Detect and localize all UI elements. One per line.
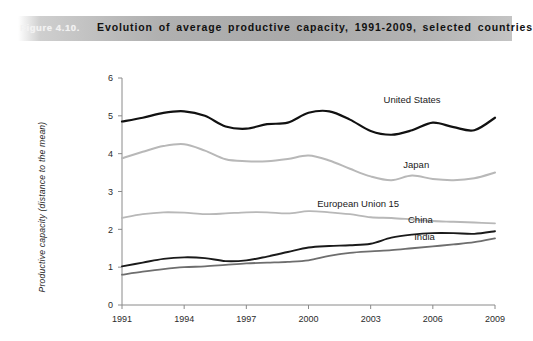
series-line-european-union-15 bbox=[122, 211, 495, 223]
y-tick-label: 2 bbox=[108, 225, 113, 235]
series-label-china: China bbox=[408, 214, 434, 225]
series-label-japan: Japan bbox=[403, 159, 429, 170]
x-tick-label: 1991 bbox=[112, 314, 132, 324]
series-label-united-states: United States bbox=[384, 94, 441, 105]
x-tick-label: 2009 bbox=[485, 314, 505, 324]
series-line-japan bbox=[122, 144, 495, 180]
x-tick-label: 2006 bbox=[423, 314, 443, 324]
chart-region: Productive capacity (distance to the mea… bbox=[0, 52, 512, 341]
y-tick-label: 4 bbox=[108, 149, 113, 159]
x-tick-label: 1997 bbox=[236, 314, 256, 324]
y-tick-label: 1 bbox=[108, 262, 113, 272]
y-tick-label: 6 bbox=[108, 73, 113, 83]
series-line-united-states bbox=[122, 111, 495, 135]
figure-number-label: Figure 4.10. bbox=[20, 22, 80, 33]
y-tick-label: 3 bbox=[108, 187, 113, 197]
figure-title: Evolution of average productive capacity… bbox=[97, 21, 533, 33]
x-tick-label: 2000 bbox=[298, 314, 318, 324]
series-label-india: India bbox=[414, 231, 435, 242]
line-chart: 01234561991199419972000200320062009Unite… bbox=[0, 52, 512, 341]
series-label-european-union-15: European Union 15 bbox=[317, 198, 399, 209]
x-tick-label: 1994 bbox=[174, 314, 194, 324]
y-tick-label: 5 bbox=[108, 111, 113, 121]
x-tick-label: 2003 bbox=[361, 314, 381, 324]
y-tick-label: 0 bbox=[108, 300, 113, 310]
series-line-india bbox=[122, 238, 495, 274]
